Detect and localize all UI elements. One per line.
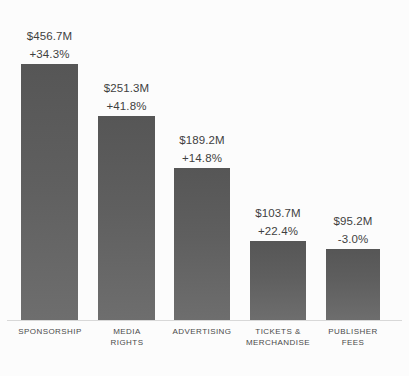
bar-value-label: $95.2M <box>298 214 408 229</box>
bar-value-label: $251.3M <box>72 81 182 96</box>
bar-rect-publisher-fees[interactable] <box>326 249 380 321</box>
bar-change-label: +41.8% <box>72 99 182 114</box>
category-label-line2: MERCHANDISE <box>232 337 324 348</box>
category-label-sponsorship: SPONSORSHIP <box>4 326 96 337</box>
category-label-publisher-fees: PUBLISHER FEES <box>312 326 394 348</box>
category-label-line1: SPONSORSHIP <box>4 326 96 337</box>
bar-value-label: $456.7M <box>0 29 105 44</box>
bar-label-sponsorship: $456.7M +34.3% <box>0 29 105 62</box>
bar-label-media-rights: $251.3M +41.8% <box>72 81 182 114</box>
bar-change-label: +34.3% <box>0 47 105 62</box>
bar-label-publisher-fees: $95.2M -3.0% <box>298 214 408 247</box>
category-label-tickets-merchandise: TICKETS & MERCHANDISE <box>232 326 324 348</box>
bar-group-publisher-fees: $95.2M -3.0% <box>326 249 380 321</box>
chart-caption <box>0 364 409 376</box>
axis-baseline <box>7 320 402 321</box>
bar-chart: $456.7M +34.3% $251.3M +41.8% $189.2M +1… <box>0 0 409 376</box>
plot-area: $456.7M +34.3% $251.3M +41.8% $189.2M +1… <box>0 0 409 321</box>
bar-rect-sponsorship[interactable] <box>21 64 78 321</box>
bar-label-advertising: $189.2M +14.8% <box>147 133 257 166</box>
category-axis: SPONSORSHIP MEDIA RIGHTS ADVERTISING TIC… <box>0 326 409 360</box>
bar-group-advertising: $189.2M +14.8% <box>174 168 230 321</box>
bar-rect-advertising[interactable] <box>174 168 230 321</box>
bar-group-sponsorship: $456.7M +34.3% <box>21 64 78 321</box>
category-label-line1: TICKETS & <box>232 326 324 337</box>
bar-group-tickets-merchandise: $103.7M +22.4% <box>250 241 306 321</box>
category-label-line2: RIGHTS <box>84 337 170 348</box>
bar-value-label: $189.2M <box>147 133 257 148</box>
bar-change-label: +14.8% <box>147 151 257 166</box>
category-label-line2: FEES <box>312 337 394 348</box>
bar-rect-tickets-merchandise[interactable] <box>250 241 306 321</box>
bar-change-label: -3.0% <box>298 232 408 247</box>
category-label-line1: PUBLISHER <box>312 326 394 337</box>
